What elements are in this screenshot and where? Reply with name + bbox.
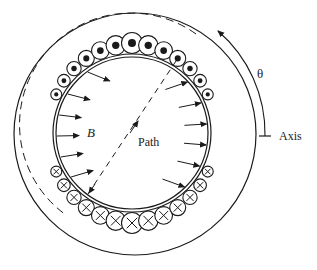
b-arrow [165,82,187,90]
b-field-label: B [87,125,95,140]
cross-conductor [202,166,213,177]
path-arrow-upper [130,121,138,133]
current-out-conductors [51,33,213,100]
b-arrow [61,153,83,157]
path-dashed-line [88,58,178,194]
dot-conductor [67,61,81,75]
dot-conductor [51,89,62,100]
b-arrow [179,103,201,107]
b-arrow [88,72,110,81]
axis-label: Axis [279,129,302,143]
dot-conductor [183,61,197,75]
inner-circle-outer-line [53,54,211,212]
path-arrow-lower [89,184,95,193]
cross-conductor [170,200,186,216]
b-arrow [59,115,81,118]
dot-conductor [170,50,186,66]
b-arrow [184,124,206,125]
cross-conductor [51,166,62,177]
dot-conductor [202,89,213,100]
theta-label: θ [257,66,263,81]
inner-circle-inner-line [56,57,208,209]
b-arrow [68,94,90,100]
b-arrow [71,171,93,177]
cross-conductor [67,190,81,204]
path-label: Path [138,135,159,149]
b-arrow [184,143,206,145]
toroid-field-diagram: B Path θ Axis [0,0,317,270]
cross-conductor [194,179,207,192]
b-arrow [162,179,184,187]
cross-conductor [58,179,71,192]
dot-conductor [58,74,71,87]
b-arrow [177,161,199,166]
theta-arc-arrow [218,31,265,136]
cross-conductor [183,190,197,204]
dot-conductor [194,74,207,87]
